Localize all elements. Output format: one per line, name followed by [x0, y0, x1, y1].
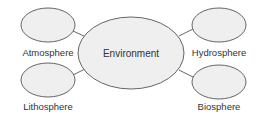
hydrosphere-label: Hydrosphere — [192, 47, 246, 58]
atmosphere-ellipse — [21, 8, 75, 42]
lithosphere-label: Lithosphere — [23, 101, 73, 112]
environment-diagram: Atmosphere Hydrosphere Lithosphere Biosp… — [0, 0, 258, 118]
node-biosphere: Biosphere — [192, 65, 246, 112]
node-hydrosphere: Hydrosphere — [192, 8, 246, 58]
hydrosphere-ellipse — [192, 8, 246, 42]
edge-environment-biosphere — [179, 70, 193, 77]
environment-label: Environment — [103, 48, 159, 59]
lithosphere-ellipse — [21, 63, 75, 97]
biosphere-label: Biosphere — [198, 101, 241, 112]
node-lithosphere: Lithosphere — [21, 63, 75, 112]
atmosphere-label: Atmosphere — [22, 47, 73, 58]
node-environment: Environment — [78, 17, 184, 89]
edge-environment-hydrosphere — [179, 29, 193, 36]
edge-environment-lithosphere — [73, 69, 85, 75]
biosphere-ellipse — [192, 65, 246, 99]
node-atmosphere: Atmosphere — [21, 8, 75, 58]
